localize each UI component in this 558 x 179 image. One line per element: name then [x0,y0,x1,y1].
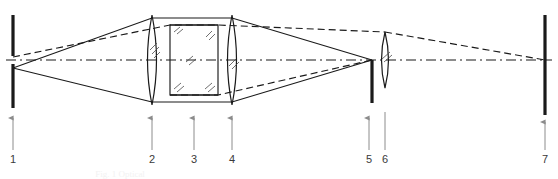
label-7: 7 [542,153,548,165]
eyepiece-to-image-ray [385,32,545,60]
optical-system-diagram: 1 2 3 4 5 6 7 Fig. 1 Optical [0,0,558,179]
upper-chief-ray [13,25,385,57]
callout-leaders [13,112,545,150]
callout-labels: 1 2 3 4 5 6 7 [10,153,548,165]
figure-caption-faint: Fig. 1 Optical [95,169,145,179]
label-2: 2 [149,153,155,165]
label-4: 4 [229,153,235,165]
label-5: 5 [366,153,372,165]
label-3: 3 [191,153,197,165]
figure-canvas: 1 2 3 4 5 6 7 Fig. 1 Optical [0,0,558,179]
front-lens-glass-hatching [150,43,160,58]
label-6: 6 [382,153,388,165]
lower-marginal-ray [13,60,372,102]
label-1: 1 [10,153,16,165]
